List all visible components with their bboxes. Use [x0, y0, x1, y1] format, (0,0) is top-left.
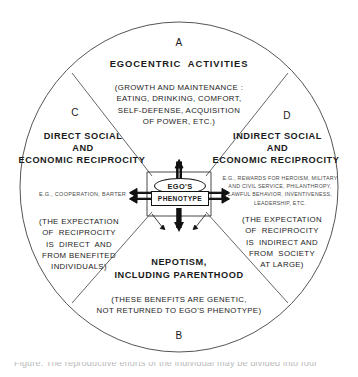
- sector-a-heading: EGOCENTRIC ACTIVITIES: [0, 58, 358, 69]
- sector-b-detail: (THESE BENEFITS ARE GENETIC, NOT RETURNE…: [0, 294, 358, 317]
- ego-phenotype-box-label: PHENOTYPE: [151, 191, 209, 206]
- figure-caption-clipped: Figure. The reproductive efforts of the …: [0, 362, 358, 377]
- sector-d-heading-line3: ECONOMIC RECIPROCITY: [196, 155, 356, 166]
- sector-b-heading-line1: NEPOTISM,: [0, 257, 358, 268]
- sector-c-heading-line1: DIRECT SOCIAL: [8, 131, 158, 142]
- sector-d-example: E.G., REWARDS FOR HEROISM, MILITARY AND …: [208, 174, 352, 207]
- ego-phenotype-node: EGO'S PHENOTYPE: [150, 178, 208, 210]
- arrow-down: [174, 208, 184, 232]
- arrow-diagonal-left: [152, 214, 165, 230]
- sector-c-heading-line2: AND: [8, 143, 158, 154]
- sector-letter-b: B: [0, 330, 358, 342]
- sector-c-example: E.G., COOPERATION, BARTER: [10, 190, 155, 198]
- sector-b-heading-line2: INCLUDING PARENTHOOD: [0, 270, 358, 281]
- arrow-diagonal-right: [193, 214, 206, 230]
- sector-letter-d: D: [262, 110, 312, 122]
- figure-diagram: A EGOCENTRIC ACTIVITIES (GROWTH AND MAIN…: [0, 0, 358, 377]
- arrow-up: [175, 160, 183, 181]
- sector-letter-a: A: [0, 37, 358, 49]
- sector-d-heading-line1: INDIRECT SOCIAL: [200, 131, 355, 142]
- figure-caption-text: Figure. The reproductive efforts of the …: [14, 362, 358, 368]
- sector-d-heading-line2: AND: [200, 143, 355, 154]
- sector-c-heading-line3: ECONOMIC RECIPROCITY: [2, 155, 162, 166]
- sector-letter-c: C: [50, 107, 100, 119]
